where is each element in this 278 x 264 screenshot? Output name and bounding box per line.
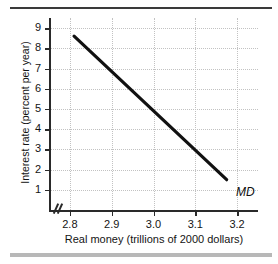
data-series-layer [0,0,278,264]
money-demand-chart-figure: 987654321 2.82.93.03.13.2 MD Interest ra… [0,0,278,264]
y-axis-title: Interest rate (percent per year) [20,29,31,197]
x-axis-title: Real money (trillions of 2000 dollars) [30,233,278,245]
series-line-md [74,36,227,179]
series-label-md: MD [236,186,255,199]
